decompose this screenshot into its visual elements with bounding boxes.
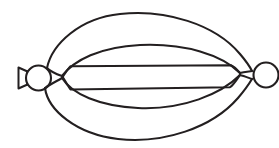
drawing-canvas: Balloon-like lens line drawing xyxy=(0,0,279,148)
right-bulb-circle xyxy=(254,63,279,88)
line-drawing-figure xyxy=(0,0,279,148)
